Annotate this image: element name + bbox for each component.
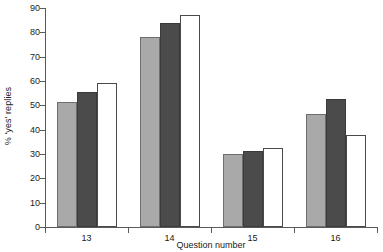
bar-series-1-16[interactable] — [306, 114, 326, 227]
bar-series-1-14[interactable] — [140, 37, 160, 227]
bar-series-3-16[interactable] — [346, 135, 366, 227]
bar-series-1-13[interactable] — [57, 102, 77, 227]
y-axis-tick-label: 80 — [30, 27, 40, 37]
y-axis-tick-label: 70 — [30, 52, 40, 62]
y-axis-tick-mark — [40, 81, 45, 82]
y-axis-tick-label: 50 — [30, 100, 40, 110]
y-axis-tick-mark — [40, 105, 45, 106]
y-axis-tick-labels: 0102030405060708090 — [14, 0, 40, 240]
y-axis-tick-label: 40 — [30, 125, 40, 135]
y-axis-tick-mark — [40, 57, 45, 58]
y-axis-tick-label: 10 — [30, 198, 40, 208]
bar-series-3-15[interactable] — [263, 148, 283, 227]
x-axis-title: Question number — [45, 240, 377, 250]
bar-group — [45, 8, 128, 227]
bar-series-1-15[interactable] — [223, 154, 243, 227]
y-axis-tick-mark — [40, 130, 45, 131]
bar-chart: % 'yes' replies 0102030405060708090 1314… — [0, 0, 383, 252]
bar-series-2-14[interactable] — [160, 23, 180, 227]
y-axis-tick-label: 60 — [30, 76, 40, 86]
y-axis-tick-mark — [40, 227, 45, 228]
y-axis-title-text: % 'yes' replies — [3, 87, 13, 145]
bar-series-2-16[interactable] — [326, 99, 346, 227]
bar-series-2-15[interactable] — [243, 151, 263, 227]
y-axis-tick-mark — [40, 178, 45, 179]
bar-series-3-13[interactable] — [97, 83, 117, 227]
x-axis-tick-mark — [377, 227, 378, 233]
bar-groups — [45, 8, 377, 227]
y-axis-tick-mark — [40, 154, 45, 155]
bar-series-3-14[interactable] — [180, 15, 200, 227]
bar-group — [211, 8, 294, 227]
bar-series-2-13[interactable] — [77, 92, 97, 227]
y-axis-tick-label: 30 — [30, 149, 40, 159]
y-axis-tick-label: 90 — [30, 3, 40, 13]
y-axis-tick-mark — [40, 8, 45, 9]
bar-group — [294, 8, 377, 227]
x-axis-ticks — [45, 227, 377, 228]
y-axis-tick-label: 20 — [30, 173, 40, 183]
bar-group — [128, 8, 211, 227]
y-axis-tick-mark — [40, 32, 45, 33]
y-axis-tick-mark — [40, 203, 45, 204]
